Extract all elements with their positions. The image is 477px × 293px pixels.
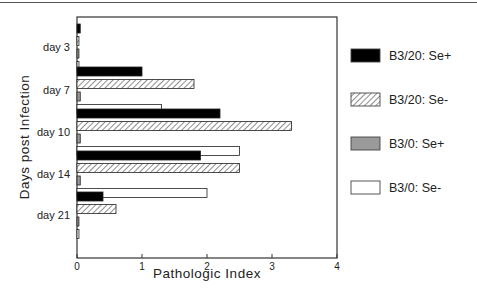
bar	[77, 151, 201, 160]
bar	[77, 192, 103, 201]
legend-label: B3/0: Se+	[389, 137, 444, 151]
category-labels: day 3day 7day 10day 14day 21	[37, 41, 70, 221]
x-axis-label: Pathologic Index	[153, 266, 261, 281]
bars	[77, 24, 292, 239]
bar	[77, 80, 194, 89]
category-label: day 3	[43, 41, 70, 53]
bar	[77, 122, 292, 131]
bar	[77, 109, 220, 118]
legend: B3/20: Se+B3/20: Se-B3/0: Se+B3/0: Se-	[351, 49, 451, 195]
bar	[77, 24, 80, 33]
bar-chart: day 3day 7day 10day 14day 21 01234 Patho…	[0, 0, 477, 293]
bar	[77, 176, 80, 185]
x-tick-label: 4	[334, 261, 340, 272]
category-label: day 21	[37, 209, 70, 221]
bar	[77, 37, 79, 46]
bar	[77, 205, 116, 214]
bar	[77, 217, 79, 226]
legend-label: B3/20: Se-	[389, 93, 448, 107]
bar	[77, 134, 80, 143]
bar	[77, 92, 80, 101]
bar	[77, 67, 142, 76]
x-tick-label: 1	[139, 261, 145, 272]
category-label: day 7	[43, 84, 70, 96]
legend-swatch	[351, 181, 380, 194]
category-label: day 10	[37, 126, 70, 138]
x-tick-label: 0	[74, 261, 80, 272]
legend-label: B3/0: Se-	[389, 181, 441, 195]
bar	[77, 164, 240, 173]
legend-swatch	[351, 137, 380, 150]
category-label: day 14	[37, 168, 70, 180]
x-tick-label: 3	[269, 261, 275, 272]
legend-swatch	[351, 93, 380, 106]
bar	[77, 49, 79, 58]
legend-swatch	[351, 49, 380, 62]
legend-label: B3/20: Se+	[389, 49, 451, 63]
bar	[77, 230, 79, 239]
y-axis-label: Days post Infection	[17, 75, 32, 199]
plot-frame	[77, 17, 337, 258]
